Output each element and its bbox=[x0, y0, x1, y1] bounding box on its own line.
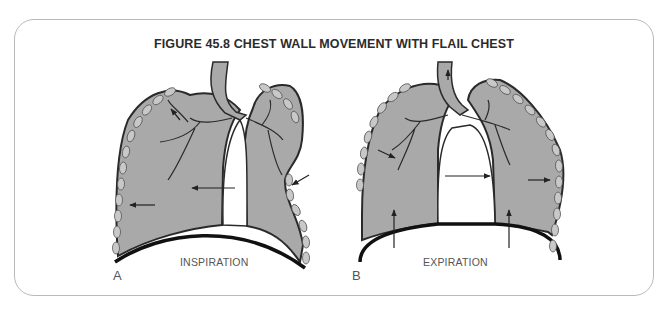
heart-space-b bbox=[438, 125, 495, 224]
panel-letter-b: B bbox=[352, 268, 361, 283]
panel-letter-a: A bbox=[113, 268, 122, 283]
phase-label-inspiration: INSPIRATION bbox=[180, 256, 249, 268]
phase-label-expiration: EXPIRATION bbox=[423, 256, 488, 268]
diagram-inspiration bbox=[0, 0, 668, 309]
